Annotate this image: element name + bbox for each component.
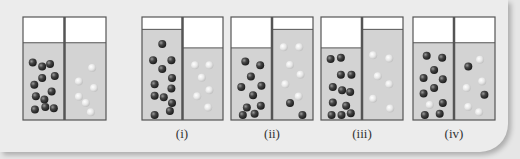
solute-particle-dark bbox=[40, 96, 48, 104]
panel-label-ii: (ii) bbox=[252, 126, 292, 142]
solute-particle-dark bbox=[438, 54, 446, 62]
solute-particle-dark bbox=[251, 110, 259, 118]
solute-particle-dark bbox=[256, 61, 264, 69]
solute-particle-dark bbox=[32, 92, 40, 100]
solvent-particle-light bbox=[75, 93, 83, 101]
solute-particle-dark bbox=[346, 88, 354, 96]
solute-particle-dark bbox=[237, 83, 245, 91]
panel-label-iv: (iv) bbox=[434, 126, 474, 142]
solute-particle-dark bbox=[423, 52, 431, 60]
solute-particle-dark bbox=[464, 63, 472, 71]
solute-particle-dark bbox=[329, 83, 337, 91]
solute-particle-dark bbox=[338, 86, 346, 94]
solute-particle-dark bbox=[151, 80, 159, 88]
solute-particle-dark bbox=[480, 91, 488, 99]
solute-particle-dark bbox=[439, 75, 447, 83]
right-liquid-ii bbox=[272, 29, 313, 120]
solute-particle-dark bbox=[421, 111, 429, 119]
solute-particle-dark bbox=[328, 111, 336, 119]
solute-particle-dark bbox=[342, 102, 350, 110]
solvent-particle-light bbox=[478, 77, 486, 85]
solvent-particle-light bbox=[280, 43, 288, 51]
solute-particle-dark bbox=[243, 104, 251, 112]
solvent-particle-light bbox=[476, 56, 484, 64]
solute-particle-dark bbox=[286, 99, 294, 107]
solvent-particle-light bbox=[295, 92, 303, 100]
solute-particle-dark bbox=[338, 111, 346, 119]
solvent-particle-light bbox=[88, 64, 96, 72]
solute-particle-dark bbox=[158, 40, 166, 48]
solute-particle-dark bbox=[41, 103, 49, 111]
solute-particle-dark bbox=[347, 71, 355, 79]
solute-particle-dark bbox=[38, 63, 46, 71]
solute-particle-dark bbox=[439, 99, 447, 107]
solute-particle-dark bbox=[151, 111, 159, 119]
solute-particle-dark bbox=[167, 56, 175, 64]
solvent-particle-light bbox=[75, 77, 83, 85]
solute-particle-dark bbox=[436, 110, 444, 118]
solvent-particle-light bbox=[295, 43, 303, 51]
solute-particle-dark bbox=[337, 71, 345, 79]
solute-particle-dark bbox=[430, 84, 438, 92]
solute-particle-dark bbox=[46, 60, 54, 68]
solvent-particle-light bbox=[385, 55, 393, 63]
solvent-particle-light bbox=[374, 72, 382, 80]
solvent-particle-light bbox=[386, 105, 394, 113]
right-liquid-iii bbox=[362, 29, 403, 120]
left-liquid-ii bbox=[231, 48, 272, 120]
panel-label-iii: (iii) bbox=[342, 126, 382, 142]
solute-particle-dark bbox=[30, 81, 38, 89]
solute-particle-dark bbox=[329, 99, 337, 107]
solvent-particle-light bbox=[204, 104, 212, 112]
right-liquid-initial bbox=[65, 43, 107, 120]
solvent-particle-light bbox=[286, 61, 294, 69]
solute-particle-dark bbox=[168, 74, 176, 82]
solute-particle-dark bbox=[151, 92, 159, 100]
solute-particle-dark bbox=[50, 104, 58, 112]
right-liquid-i bbox=[183, 48, 224, 120]
solvent-particle-light bbox=[87, 108, 95, 116]
solvent-particle-light bbox=[369, 51, 377, 59]
solute-particle-dark bbox=[239, 111, 247, 119]
right-liquid-iv bbox=[454, 43, 495, 120]
solute-particle-dark bbox=[29, 59, 37, 67]
solute-particle-dark bbox=[31, 106, 39, 114]
solute-particle-dark bbox=[298, 111, 306, 119]
solvent-particle-light bbox=[198, 74, 206, 82]
solute-particle-dark bbox=[337, 54, 345, 62]
solute-particle-dark bbox=[48, 87, 56, 95]
solvent-particle-light bbox=[475, 108, 483, 116]
solvent-particle-light bbox=[281, 80, 289, 88]
solute-particle-dark bbox=[347, 109, 355, 117]
solvent-particle-light bbox=[82, 99, 90, 107]
solute-particle-dark bbox=[257, 82, 265, 90]
solvent-particle-light bbox=[205, 86, 213, 94]
solute-particle-dark bbox=[158, 65, 166, 73]
solute-particle-dark bbox=[420, 74, 428, 82]
solute-particle-dark bbox=[420, 89, 428, 97]
solvent-particle-light bbox=[464, 103, 472, 111]
solvent-particle-light bbox=[191, 61, 199, 69]
solute-particle-dark bbox=[327, 55, 335, 63]
solute-particle-dark bbox=[168, 99, 176, 107]
solute-particle-dark bbox=[38, 74, 46, 82]
left-liquid-iv bbox=[413, 43, 454, 120]
solvent-particle-light bbox=[297, 71, 305, 79]
solute-particle-dark bbox=[166, 107, 174, 115]
solvent-particle-light bbox=[385, 80, 393, 88]
panel-label-i: (i) bbox=[162, 126, 202, 142]
solute-particle-dark bbox=[241, 58, 249, 66]
solute-particle-dark bbox=[167, 84, 175, 92]
solvent-particle-light bbox=[426, 101, 434, 109]
solvent-particle-light bbox=[463, 84, 471, 92]
solute-particle-dark bbox=[149, 56, 157, 64]
solute-particle-dark bbox=[51, 72, 59, 80]
solute-particle-dark bbox=[249, 91, 257, 99]
solvent-particle-light bbox=[369, 95, 377, 103]
solute-particle-dark bbox=[257, 102, 265, 110]
solute-particle-dark bbox=[160, 93, 168, 101]
solute-particle-dark bbox=[247, 72, 255, 80]
solvent-particle-light bbox=[90, 84, 98, 92]
solvent-particle-light bbox=[205, 61, 213, 69]
solvent-particle-light bbox=[193, 92, 201, 100]
